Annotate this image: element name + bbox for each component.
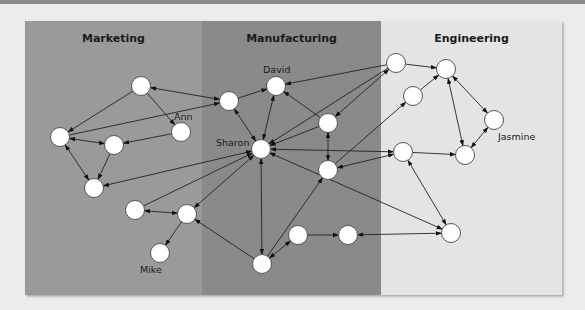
node-mbot[interactable] <box>85 179 104 198</box>
node-sharon[interactable] <box>252 140 271 159</box>
node-e3[interactable] <box>404 87 423 106</box>
node-mfb3[interactable] <box>339 226 358 245</box>
node-ann[interactable] <box>172 123 191 142</box>
node-e1[interactable] <box>387 54 406 73</box>
node-m1[interactable] <box>132 77 151 96</box>
node-mmid[interactable] <box>105 136 124 155</box>
node-ml2[interactable] <box>178 205 197 224</box>
node-mfr2[interactable] <box>319 161 338 180</box>
region-marketing <box>25 21 202 295</box>
node-label-mike: Mike <box>140 264 162 275</box>
node-ebot[interactable] <box>442 224 461 243</box>
region-label-manufacturing: Manufacturing <box>246 32 337 45</box>
region-label-marketing: Marketing <box>82 32 145 45</box>
node-label-ann: Ann <box>174 111 193 122</box>
node-mf1[interactable] <box>220 92 239 111</box>
department-regions: MarketingManufacturingEngineering <box>25 21 562 295</box>
node-mfb2[interactable] <box>289 226 308 245</box>
node-ml1[interactable] <box>126 201 145 220</box>
network-diagram: MarketingManufacturingEngineering AnnMik… <box>0 0 585 310</box>
node-jasmine[interactable] <box>485 111 504 130</box>
node-mike[interactable] <box>151 244 170 263</box>
node-mfr1[interactable] <box>319 114 338 133</box>
node-e2[interactable] <box>437 60 456 79</box>
node-label-jasmine: Jasmine <box>497 131 535 142</box>
region-label-engineering: Engineering <box>434 32 509 45</box>
node-mfb[interactable] <box>253 255 272 274</box>
region-manufacturing <box>202 21 381 295</box>
node-mleft[interactable] <box>51 128 70 147</box>
node-emid[interactable] <box>394 143 413 162</box>
node-david[interactable] <box>267 77 286 96</box>
node-eright[interactable] <box>456 146 475 165</box>
node-label-david: David <box>263 64 290 75</box>
node-label-sharon: Sharon <box>216 137 249 148</box>
